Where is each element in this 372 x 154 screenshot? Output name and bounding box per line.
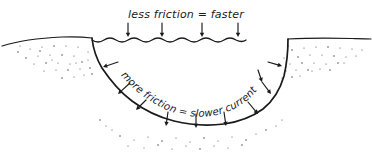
- stipple-dot: [73, 55, 74, 56]
- stipple-dot: [61, 77, 63, 79]
- stipple-dot: [65, 45, 66, 46]
- bed-outward-arrow: [258, 70, 263, 82]
- arrow-head: [259, 77, 263, 82]
- arrow-shaft: [268, 62, 278, 65]
- stipple-dot: [119, 135, 121, 137]
- arrow-head: [103, 64, 108, 68]
- stipple-dot: [333, 55, 335, 57]
- stipple-dot: [105, 125, 106, 126]
- stipple-dot: [45, 62, 47, 64]
- stipple-dot: [275, 125, 276, 126]
- stipple-dot: [111, 129, 112, 130]
- stipple-dot: [343, 62, 344, 63]
- right-ground-line: [288, 38, 371, 39]
- stipple-dot: [327, 46, 329, 48]
- stipple-dot: [213, 145, 214, 146]
- stipple-dot: [189, 141, 190, 142]
- surface-friction-label: less friction = faster: [128, 8, 245, 21]
- stipple-dot: [87, 51, 88, 52]
- right-bank-stipple: [281, 45, 362, 78]
- water-surface-line: [92, 38, 246, 42]
- arrow-head: [236, 33, 240, 37]
- stipple-dot: [297, 56, 299, 58]
- arrow-shaft: [262, 82, 268, 91]
- stipple-dot: [309, 54, 310, 55]
- stipple-dot: [299, 75, 300, 76]
- river-friction-diagram: less friction = faster more friction = s…: [0, 0, 372, 154]
- arrow-head: [164, 122, 168, 126]
- surface-down-arrow: [236, 23, 240, 37]
- surface-down-arrow: [200, 23, 204, 37]
- arrow-shaft: [167, 112, 168, 122]
- bed-friction-label-text: more friction = slower current: [119, 69, 259, 119]
- stipple-dot: [87, 59, 88, 60]
- bed-outward-arrow: [268, 62, 282, 67]
- stipple-dot: [77, 46, 78, 47]
- arrow-head: [194, 124, 198, 128]
- stipple-dot: [351, 48, 352, 49]
- stipple-dot: [83, 74, 84, 75]
- stipple-dot: [57, 62, 58, 63]
- stipple-dot: [29, 48, 30, 49]
- stipple-dot: [99, 119, 101, 121]
- arrow-head: [200, 33, 204, 37]
- arrow-head: [277, 63, 282, 67]
- stipple-dot: [241, 144, 243, 146]
- stipple-dot: [307, 69, 309, 71]
- diagram-canvas: less friction = faster more friction = s…: [0, 0, 372, 154]
- stipple-dot: [301, 62, 303, 64]
- stipple-dot: [53, 45, 55, 47]
- bed-outward-arrow: [103, 62, 118, 68]
- stipple-dot: [33, 63, 34, 64]
- stipple-dot: [147, 136, 148, 137]
- stipple-dot: [283, 57, 284, 58]
- stipple-dot: [143, 147, 144, 148]
- left-bank-ground: [2, 37, 92, 46]
- stipple-dot: [295, 69, 296, 70]
- arrow-shaft: [107, 62, 118, 66]
- stipple-dot: [329, 69, 331, 71]
- arrow-head: [160, 33, 164, 37]
- stipple-dot: [303, 47, 304, 48]
- stipple-dot: [161, 140, 163, 142]
- stipple-dot: [73, 76, 74, 77]
- stipple-dot: [361, 49, 362, 50]
- stipple-dot: [25, 57, 27, 59]
- stipple-dot: [227, 147, 228, 148]
- stipple-dot: [41, 46, 42, 47]
- stipple-dot: [315, 46, 316, 47]
- stipple-dot: [345, 56, 346, 57]
- left-ground-line: [2, 37, 92, 46]
- stipple-dot: [289, 63, 290, 64]
- stipple-dot: [19, 45, 20, 46]
- stipple-dot: [67, 69, 69, 71]
- stipple-dot: [311, 70, 312, 71]
- stipple-dot: [265, 129, 267, 131]
- stipple-dot: [39, 50, 41, 52]
- stipple-dot: [291, 49, 293, 51]
- surface-down-arrow: [126, 23, 130, 37]
- stipple-dot: [43, 70, 44, 71]
- stipple-dot: [319, 68, 320, 69]
- stipple-dot: [171, 148, 172, 149]
- stipple-dot: [89, 67, 91, 69]
- stipple-dot: [321, 54, 322, 55]
- stipple-dot: [55, 69, 56, 70]
- stipple-dot: [185, 145, 186, 146]
- stipple-dot: [133, 139, 134, 140]
- surface-down-arrow: [160, 23, 164, 37]
- stipple-dot: [157, 144, 159, 146]
- stipple-dot: [49, 54, 50, 55]
- arrow-shaft: [258, 70, 261, 78]
- stipple-dot: [231, 136, 232, 137]
- stipple-dot: [355, 55, 356, 56]
- stipple-dot: [245, 139, 247, 141]
- stipple-dot: [79, 68, 80, 69]
- stipple-dot: [313, 62, 314, 63]
- stipple-dot: [51, 59, 52, 60]
- stipple-dot: [69, 63, 70, 64]
- stipple-dot: [81, 61, 83, 63]
- stipple-dot: [255, 133, 256, 134]
- stipple-dot: [281, 77, 282, 78]
- stipple-dot: [17, 51, 19, 53]
